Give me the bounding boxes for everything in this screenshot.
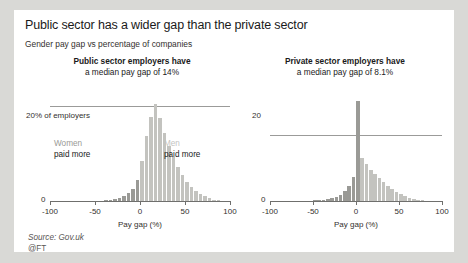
chart-panel-public-sector: Public sector employers have a median pa… xyxy=(24,56,240,216)
histogram-bar xyxy=(356,101,360,201)
histogram-bar xyxy=(158,118,162,201)
chart-panel-private-sector: Private sector employers have a median p… xyxy=(242,56,448,216)
x-axis-tick xyxy=(185,201,186,205)
annotation-women-sub: paid more xyxy=(54,150,90,159)
x-axis-tick-label: -50 xyxy=(89,207,101,216)
x-axis-tick-label: -100 xyxy=(42,207,58,216)
histogram-bar xyxy=(181,175,185,201)
histogram-bar xyxy=(149,117,153,201)
histogram-bar xyxy=(154,104,158,201)
x-axis-public: -100-50050100 Pay gap (%) xyxy=(50,201,230,231)
panel-title-line1-private: Private sector employers have xyxy=(285,56,405,66)
x-axis-private: -100-50050100 Pay gap (%) xyxy=(270,201,442,231)
x-axis-tick xyxy=(230,201,231,205)
histogram-bar xyxy=(343,191,347,201)
histogram-bar xyxy=(347,186,351,201)
annotation-men-label: Men xyxy=(164,139,180,148)
x-axis-title-public: Pay gap (%) xyxy=(50,220,230,229)
annotation-men-sub: paid more xyxy=(164,150,200,159)
x-axis-tick-label: 0 xyxy=(354,207,358,216)
y-axis-label-0-public: 0 xyxy=(41,195,45,204)
x-axis-tick-label: 100 xyxy=(223,207,236,216)
histogram-bar xyxy=(386,186,390,201)
y-axis-label-0-private: 0 xyxy=(261,195,265,204)
annotation-men: Men paid more xyxy=(164,138,200,160)
histogram-bar xyxy=(131,189,135,201)
chart-subtitle: Gender pay gap vs percentage of companie… xyxy=(25,39,192,49)
histogram-bar xyxy=(369,170,373,202)
figure-card: Public sector has a wider gap than the p… xyxy=(14,10,454,252)
x-axis-title-private: Pay gap (%) xyxy=(270,220,442,229)
x-axis-tick-label: 50 xyxy=(181,207,190,216)
x-axis-tick xyxy=(270,201,271,205)
histogram-bar xyxy=(172,157,176,201)
x-axis-tick-label: -100 xyxy=(262,207,278,216)
x-axis-tick-label: 100 xyxy=(435,207,448,216)
histogram-bar xyxy=(390,189,394,201)
histogram-bar xyxy=(127,193,131,201)
histogram-bar xyxy=(352,177,356,201)
x-axis-tick-label: 0 xyxy=(138,207,142,216)
y-axis-label-20-public: 20% of employers xyxy=(26,111,90,120)
histogram-bar xyxy=(360,158,364,201)
x-axis-tick xyxy=(140,201,141,205)
histogram-bar xyxy=(190,187,194,201)
footer: Source: Gov.uk @FT xyxy=(28,232,84,254)
histogram-bar xyxy=(365,164,369,201)
histogram-bar xyxy=(194,191,198,202)
histogram-bar xyxy=(373,174,377,201)
source-text: Source: Gov.uk xyxy=(28,233,84,242)
x-axis-tick-label: -50 xyxy=(307,207,319,216)
y-axis-label-20-private: 20 xyxy=(252,111,261,120)
annotation-women-label: Women xyxy=(54,139,82,148)
histogram-bar xyxy=(185,182,189,201)
x-axis-tick xyxy=(356,201,357,205)
x-axis-tick-label: 50 xyxy=(395,207,404,216)
histogram-bar xyxy=(140,161,144,201)
panel-title-line1: Public sector employers have xyxy=(73,56,190,66)
histogram-bar xyxy=(145,136,149,201)
panel-title-private: Private sector employers have a median p… xyxy=(242,56,448,77)
panel-title-line2-private: a median pay gap of 8.1% xyxy=(297,67,393,77)
histogram-bar xyxy=(378,178,382,201)
histogram-bar xyxy=(136,180,140,201)
histogram-bar xyxy=(199,194,203,201)
x-axis-tick xyxy=(399,201,400,205)
x-axis-tick xyxy=(95,201,96,205)
x-axis-tick xyxy=(313,201,314,205)
panel-title-line2: a median pay gap of 14% xyxy=(85,67,179,77)
x-axis-tick xyxy=(50,201,51,205)
x-axis-tick xyxy=(442,201,443,205)
page-title: Public sector has a wider gap than the p… xyxy=(25,18,308,32)
credit-text: @FT xyxy=(28,244,46,253)
histogram-bar xyxy=(176,167,180,201)
histogram-bars-private xyxy=(270,96,442,201)
histogram-bar xyxy=(395,192,399,201)
plot-area-private xyxy=(270,96,442,201)
panel-title-public: Public sector employers have a median pa… xyxy=(24,56,240,77)
histogram-bar xyxy=(382,182,386,201)
annotation-women: Women paid more xyxy=(54,138,90,160)
